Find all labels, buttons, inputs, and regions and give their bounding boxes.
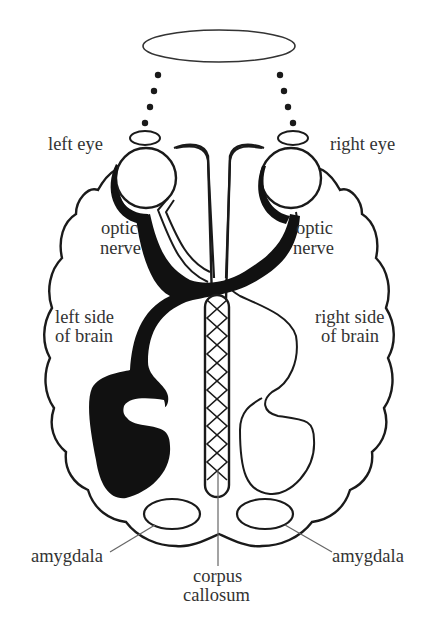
right-eye — [258, 131, 321, 224]
amygdala-left-shape — [144, 499, 200, 529]
brain-visual-pathway-diagram: left eye right eye optic nerve optic ner… — [0, 0, 435, 632]
line-of-sight-left — [142, 72, 161, 126]
left-hemisphere-notch — [123, 398, 165, 421]
label-amygdala-left: amygdala — [31, 546, 103, 566]
label-optic-nerve-left-2: nerve — [100, 238, 141, 258]
label-optic-nerve-right-1: optic — [296, 218, 333, 238]
label-amygdala-right: amygdala — [332, 546, 404, 566]
corpus-callosum — [205, 295, 229, 497]
label-optic-nerve-right-2: nerve — [293, 238, 334, 258]
label-left-brain-2: of brain — [55, 326, 113, 346]
viewed-object-ellipse — [143, 30, 295, 62]
label-right-brain-2: of brain — [321, 326, 379, 346]
amygdala-right-shape — [237, 499, 293, 529]
label-left-brain-1: left side — [55, 307, 114, 327]
line-of-sight-right — [277, 72, 296, 126]
label-right-eye: right eye — [330, 134, 395, 154]
label-corpus: corpus — [193, 566, 242, 586]
label-right-brain-1: right side — [315, 307, 384, 327]
hemisphere-divider-right — [226, 147, 262, 279]
label-callosum: callosum — [183, 585, 250, 605]
label-optic-nerve-left-1: optic — [101, 218, 138, 238]
label-left-eye: left eye — [48, 134, 103, 154]
